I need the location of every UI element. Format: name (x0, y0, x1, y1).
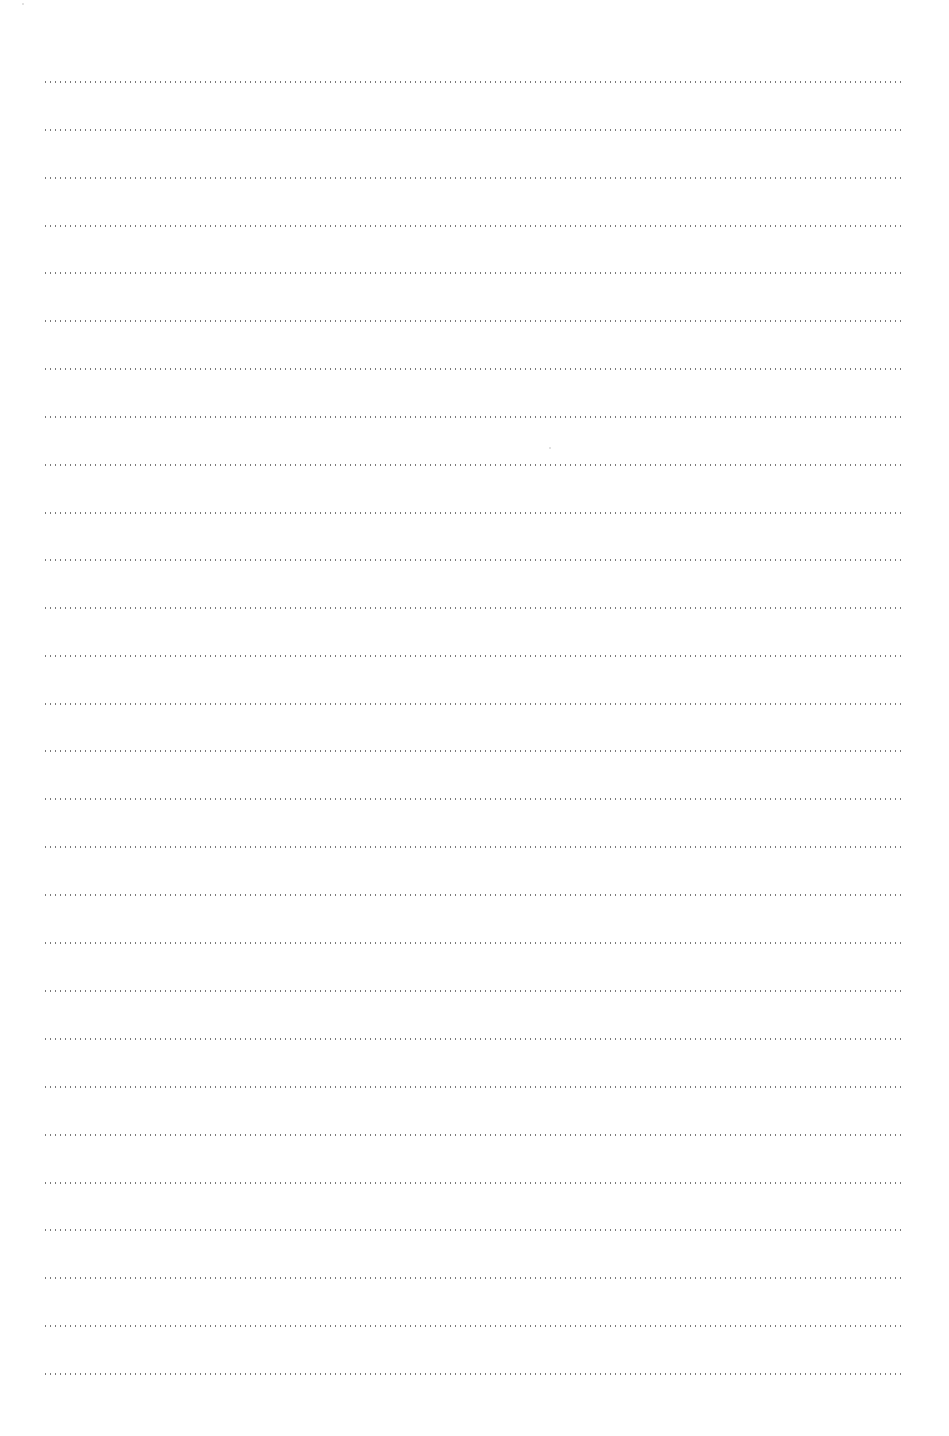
dotted-rule-line (43, 1134, 904, 1136)
dotted-rule-line (43, 655, 904, 657)
dotted-rule-line (43, 416, 904, 418)
dotted-rule-line (43, 990, 904, 992)
dotted-rule-line (43, 1182, 904, 1184)
dotted-rule-line (43, 1229, 904, 1231)
dotted-rule-line (43, 225, 904, 227)
paper-speck (22, 3, 24, 5)
dotted-rule-line (43, 1325, 904, 1327)
dotted-rule-line (43, 750, 904, 752)
dotted-rule-line (43, 272, 904, 274)
dotted-rule-line (43, 607, 904, 609)
dotted-rule-line (43, 1373, 904, 1375)
dotted-rule-line (43, 1038, 904, 1040)
dotted-rule-line (43, 177, 904, 179)
dotted-rule-line (43, 846, 904, 848)
dotted-rule-line (43, 368, 904, 370)
dotted-rule-line (43, 942, 904, 944)
dotted-rule-line (43, 512, 904, 514)
dotted-rule-line (43, 1086, 904, 1088)
dotted-rule-line (43, 129, 904, 131)
dotted-rule-line (43, 559, 904, 561)
dotted-rule-line (43, 798, 904, 800)
dotted-rule-line (43, 703, 904, 705)
dotted-rule-line (43, 464, 904, 466)
dotted-rule-line (43, 894, 904, 896)
dotted-rule-line (43, 1277, 904, 1279)
dotted-rule-line (43, 320, 904, 322)
lined-page (0, 0, 949, 1436)
paper-speck (549, 447, 551, 449)
dotted-rule-line (43, 81, 904, 83)
